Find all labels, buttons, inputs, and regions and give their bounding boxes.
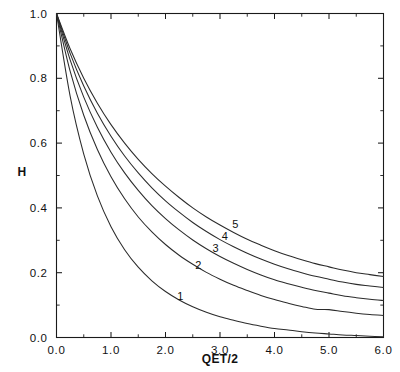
x-axis-title: QET/2 <box>202 352 239 366</box>
curve-label-2: 2 <box>195 259 201 271</box>
x-tick-label: 0.0 <box>48 344 66 356</box>
x-tick-label: 5.0 <box>320 344 338 356</box>
x-tick-label: 1.0 <box>102 344 120 356</box>
y-tick-label: 1.0 <box>30 8 48 20</box>
curve-label-5: 5 <box>232 218 238 230</box>
y-tick-label: 0.0 <box>30 332 48 344</box>
chart-background <box>0 0 400 372</box>
x-tick-label: 4.0 <box>266 344 284 356</box>
y-tick-label: 0.6 <box>30 137 48 149</box>
y-tick-label: 0.2 <box>30 267 48 279</box>
curve-label-4: 4 <box>222 230 228 242</box>
line-chart: 0.01.02.03.04.05.06.0 0.00.20.40.60.81.0… <box>0 0 400 372</box>
curve-label-1: 1 <box>177 290 183 302</box>
y-tick-label: 0.4 <box>30 202 48 214</box>
x-tick-label: 2.0 <box>157 344 175 356</box>
y-tick-label: 0.8 <box>30 72 48 84</box>
chart-figure: 0.01.02.03.04.05.06.0 0.00.20.40.60.81.0… <box>0 0 400 372</box>
x-tick-label: 6.0 <box>375 344 393 356</box>
curve-label-3: 3 <box>213 242 219 254</box>
y-axis-title: H <box>17 165 26 179</box>
